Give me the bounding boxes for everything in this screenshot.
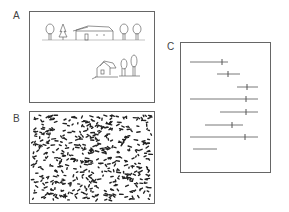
panel-c-line-segments bbox=[0, 0, 289, 212]
